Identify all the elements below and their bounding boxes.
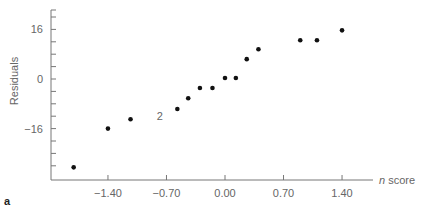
point-count-annotation: 2 — [157, 110, 163, 122]
y-tick-label: 16 — [31, 23, 43, 35]
data-point — [186, 96, 191, 101]
x-tick-label: −0.70 — [153, 187, 181, 199]
y-axis-title: Residuals — [8, 56, 20, 105]
axes — [51, 10, 373, 180]
data-point — [234, 76, 239, 81]
x-tick-label: 0.70 — [273, 187, 294, 199]
data-point — [298, 38, 303, 43]
data-points — [71, 28, 344, 170]
data-point — [175, 107, 180, 112]
data-point — [340, 28, 345, 33]
data-point — [198, 86, 203, 91]
data-point — [244, 57, 249, 62]
data-point — [210, 86, 215, 91]
x-tick-label: 1.40 — [331, 187, 352, 199]
data-point — [106, 126, 111, 131]
residual-plot: 160−16−1.40−0.700.000.701.40n scoreResid… — [0, 0, 423, 210]
x-axis-title: n score — [379, 174, 415, 186]
data-point — [256, 47, 261, 52]
data-point — [223, 76, 228, 81]
y-tick-label: −16 — [24, 123, 43, 135]
data-point — [315, 38, 320, 43]
x-tick-label: −1.40 — [94, 187, 122, 199]
y-tick-label: 0 — [37, 73, 43, 85]
x-tick-label: 0.00 — [214, 187, 235, 199]
data-point — [128, 117, 133, 122]
data-point — [71, 165, 76, 170]
labels: 160−16−1.40−0.700.000.701.40n scoreResid… — [4, 23, 415, 207]
panel-label: a — [4, 195, 11, 207]
